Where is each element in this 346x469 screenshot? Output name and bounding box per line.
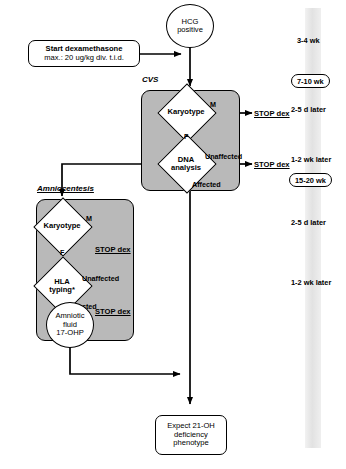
timeline-item-3: 1-2 wk later — [291, 155, 331, 164]
cvs-dna-line2: analysis — [171, 164, 201, 173]
timeline-item-4: 15-20 wk — [289, 173, 332, 187]
cvs-branch-female: F — [184, 132, 188, 141]
cvs-branch-male: M — [210, 100, 216, 109]
cvs-stop-dex-male: STOP dex — [254, 109, 290, 118]
amnio-branch-unaffected: Unaffected — [82, 274, 119, 283]
timeline-item-5: 2-5 d later — [291, 218, 326, 227]
amnio-hla-line2: typing* — [49, 286, 75, 295]
dexamethasone-line2: max.: 20 ug/kg div. t.i.d. — [44, 54, 124, 63]
amniotic-line3: 17-OHP — [56, 329, 83, 338]
cvs-section-label: CVS — [142, 75, 158, 84]
outcome-line3: phenotype — [173, 439, 208, 448]
amnio-stop-dex-unaffected: STOP dex — [95, 307, 131, 316]
timeline-item-0: 3-4 wk — [297, 36, 320, 45]
start-dexamethasone-node: Start dexamethasone max.: 20 ug/kg div. … — [28, 40, 140, 67]
amnio-branch-male: M — [86, 214, 92, 223]
timeline-item-2: 2-5 d later — [291, 105, 326, 114]
flowchart-canvas: HCG positive Start dexamethasone max.: 2… — [0, 0, 346, 469]
amniotic-fluid-node: Amniotic fluid 17-OHP — [46, 302, 94, 348]
amnio-branch-female: F — [60, 248, 64, 257]
outcome-node: Expect 21-OH deficiency phenotype — [155, 415, 227, 455]
amniocentesis-section-label: Amniocentesis — [37, 184, 94, 193]
amnio-stop-dex-male: STOP dex — [95, 245, 131, 254]
timeline-item-6: 1-2 wk later — [291, 278, 331, 287]
timeline-item-1: 7-10 wk — [291, 74, 330, 88]
cvs-branch-affected: Affected — [192, 180, 221, 189]
hcg-line2: positive — [177, 26, 203, 35]
cvs-stop-dex-unaffected: STOP dex — [254, 160, 290, 169]
cvs-branch-unaffected: Unaffected — [205, 152, 242, 161]
hcg-positive-node: HCG positive — [166, 4, 214, 48]
